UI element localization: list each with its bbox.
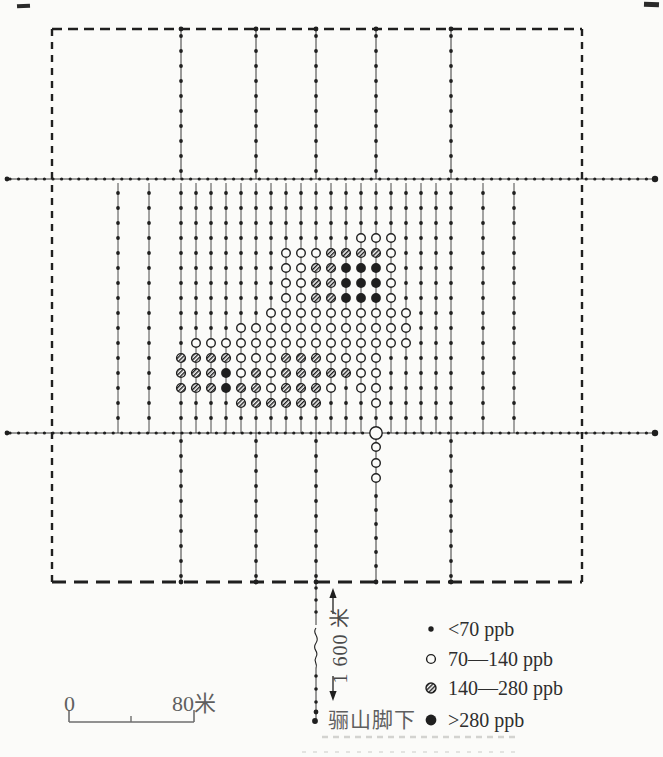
sample-dot [374,564,378,568]
sample-dot [374,416,378,420]
sample-dot [619,431,622,434]
survey-column [402,183,411,433]
sample-dot [374,94,378,98]
sample-dot [419,326,423,330]
sample-dot [254,64,258,68]
sample-dot [404,386,408,390]
sample-dot [26,177,29,180]
sample-dot [314,124,318,128]
sample-dot [116,296,120,300]
sample-dot [314,416,318,420]
sample-dot [179,454,183,458]
sample-dot [179,124,183,128]
sample-dot [434,191,438,195]
sample-dot [284,236,288,240]
sample-open-circle [370,427,382,439]
sample-dot [550,431,553,434]
sample-dot [194,296,198,300]
sample-dot [116,281,120,285]
sample-dot [314,499,318,503]
sample-dot [499,431,502,434]
sample-dot [155,177,158,180]
sample-dot [645,177,648,180]
sample-dot [60,431,63,434]
sample-dot [370,177,373,180]
sample-hatched-circle [297,384,306,393]
sample-dot [163,431,166,434]
sample-dot [314,529,318,533]
legend-dot-symbol [428,626,433,631]
sample-hatched-circle [177,369,186,378]
sample-dot [421,177,424,180]
sample-dot [389,401,393,405]
sample-open-circle [342,324,351,333]
sample-dot [314,206,318,210]
sample-dot [254,281,258,285]
sample-dot [239,266,243,270]
sample-open-circle [327,339,336,348]
sample-dot [254,154,258,158]
sample-dot [194,236,198,240]
sample-hatched-circle [207,369,216,378]
scale-zero-label: 0 [64,691,75,716]
sample-hatched-circle [426,683,436,693]
sample-open-circle [387,249,396,258]
sample-dot [602,431,605,434]
sample-dot [179,499,183,503]
sample-dot [198,177,201,180]
sample-dot [374,139,378,143]
sample-dot [542,177,545,180]
sample-dot [194,416,198,420]
sample-open-circle [222,339,231,348]
sample-dot [147,251,151,255]
sample-dot [239,251,243,255]
sample-dot [103,431,106,434]
sample-open-circle [252,324,261,333]
sample-dot [449,371,453,375]
sample-open-circle [387,294,396,303]
survey-column [207,183,216,433]
sample-hatched-circle [342,249,351,258]
sample-hatched-circle [357,249,366,258]
sample-dot [550,177,553,180]
sample-dot [146,177,149,180]
sample-dot [116,326,120,330]
sample-open-circle [297,249,306,258]
sample-dot [147,386,151,390]
sample-dot [116,341,120,345]
sample-black-circle [341,278,351,288]
sample-dot [344,191,348,195]
sample-hatched-circle [327,369,336,378]
sample-dot [239,416,243,420]
sample-black-circle [371,278,381,288]
sample-dot [374,206,378,210]
survey-column [371,183,381,433]
sample-dot [241,177,244,180]
sample-dot [314,674,318,678]
sample-dot [179,281,183,285]
sample-dot [419,206,423,210]
sample-dot [449,356,453,360]
sample-dot [389,221,393,225]
sample-open-circle [357,309,366,318]
sample-dot [559,431,562,434]
sample-dot [449,401,453,405]
sample-dot [299,236,303,240]
sample-dot [179,94,183,98]
sample-dot [449,64,453,68]
sample-dot [507,177,510,180]
sample-dot [275,177,278,180]
sample-dot [299,206,303,210]
sample-dot [254,124,258,128]
sample-dot [314,469,318,473]
sample-dot [419,356,423,360]
sample-dot [542,431,545,434]
sample-dot [419,251,423,255]
sample-open-circle [327,354,336,363]
sample-open-circle [267,384,276,393]
sample-dot [314,454,318,458]
sample-open-circle [372,339,381,348]
sample-open-circle [267,324,276,333]
sample-dot [314,687,318,691]
junction-dot [374,580,379,585]
